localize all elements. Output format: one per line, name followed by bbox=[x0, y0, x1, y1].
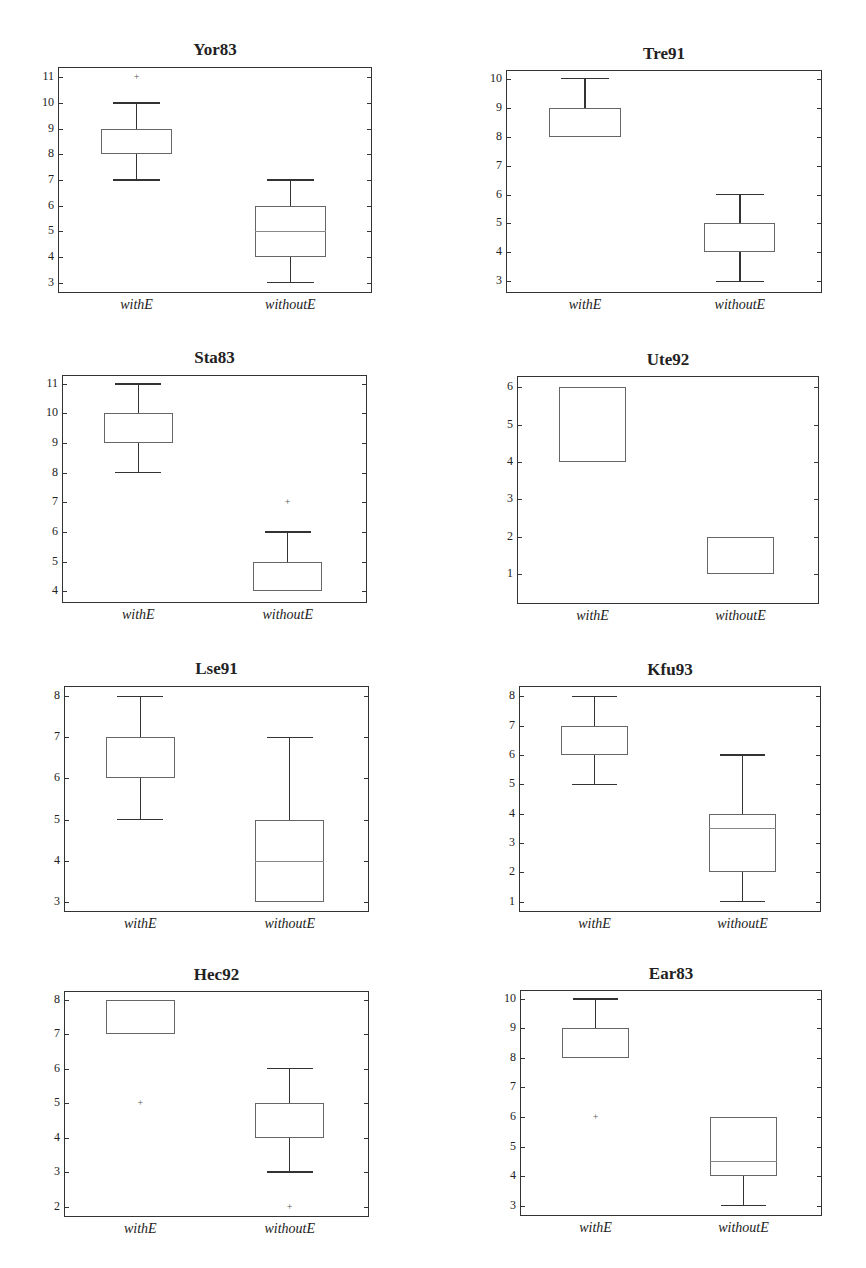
y-tick-label: 2 bbox=[493, 864, 515, 879]
y-tick-label: 11 bbox=[32, 69, 54, 84]
y-tick-mark bbox=[816, 814, 820, 815]
x-axis-label: withE bbox=[555, 916, 635, 932]
lower-whisker-cap bbox=[113, 179, 160, 181]
upper-whisker-cap bbox=[267, 737, 313, 739]
y-tick-mark bbox=[59, 283, 63, 284]
y-tick-mark bbox=[518, 462, 522, 463]
y-tick-label: 6 bbox=[494, 1109, 516, 1124]
x-axis-label: withE bbox=[545, 297, 625, 313]
y-tick-mark bbox=[364, 902, 368, 903]
x-axis-label: withoutE bbox=[250, 297, 330, 313]
y-tick-mark bbox=[362, 443, 366, 444]
iqr-box bbox=[104, 413, 173, 443]
iqr-box bbox=[561, 726, 629, 755]
y-tick-mark bbox=[814, 499, 818, 500]
y-tick-label: 7 bbox=[480, 158, 502, 173]
y-tick-mark bbox=[518, 499, 522, 500]
x-axis-label: withE bbox=[100, 1221, 180, 1237]
y-tick-label: 5 bbox=[36, 554, 58, 569]
y-tick-mark bbox=[63, 443, 67, 444]
upper-whisker bbox=[290, 180, 292, 206]
y-tick-mark bbox=[520, 784, 524, 785]
upper-whisker bbox=[140, 696, 142, 737]
iqr-box bbox=[559, 387, 627, 462]
y-tick-mark bbox=[63, 591, 67, 592]
y-tick-mark bbox=[518, 425, 522, 426]
y-tick-mark bbox=[507, 108, 511, 109]
y-tick-mark bbox=[507, 79, 511, 80]
y-tick-label: 4 bbox=[38, 1130, 60, 1145]
y-tick-mark bbox=[65, 1069, 69, 1070]
y-tick-mark bbox=[65, 1172, 69, 1173]
y-tick-label: 2 bbox=[491, 529, 513, 544]
y-tick-label: 6 bbox=[491, 379, 513, 394]
y-tick-mark bbox=[816, 902, 820, 903]
upper-whisker-cap bbox=[720, 754, 765, 756]
y-tick-label: 3 bbox=[493, 835, 515, 850]
lower-whisker-cap bbox=[115, 472, 161, 474]
y-tick-label: 8 bbox=[493, 688, 515, 703]
upper-whisker bbox=[595, 999, 597, 1029]
lower-whisker bbox=[743, 1176, 745, 1206]
chart-title: Sta83 bbox=[62, 348, 367, 368]
lower-whisker-cap bbox=[716, 281, 763, 283]
y-tick-mark bbox=[814, 537, 818, 538]
y-tick-mark bbox=[817, 1147, 821, 1148]
y-tick-mark bbox=[364, 1069, 368, 1070]
y-tick-mark bbox=[65, 902, 69, 903]
iqr-box bbox=[549, 108, 620, 137]
x-axis-label: withoutE bbox=[250, 916, 330, 932]
x-axis-label: withE bbox=[100, 916, 180, 932]
y-tick-label: 3 bbox=[38, 894, 60, 909]
lower-whisker-cap bbox=[720, 901, 765, 903]
y-tick-label: 6 bbox=[480, 187, 502, 202]
y-tick-mark bbox=[364, 1172, 368, 1173]
lower-whisker-cap bbox=[267, 1171, 313, 1173]
y-tick-mark bbox=[507, 223, 511, 224]
y-tick-mark bbox=[362, 384, 366, 385]
x-axis-label: withoutE bbox=[248, 607, 328, 623]
y-tick-mark bbox=[816, 843, 820, 844]
y-tick-label: 3 bbox=[480, 273, 502, 288]
y-tick-label: 8 bbox=[38, 688, 60, 703]
y-tick-mark bbox=[65, 861, 69, 862]
y-tick-mark bbox=[367, 206, 371, 207]
y-tick-label: 10 bbox=[480, 71, 502, 86]
y-tick-mark bbox=[59, 103, 63, 104]
y-tick-mark bbox=[364, 1034, 368, 1035]
y-tick-label: 6 bbox=[38, 1061, 60, 1076]
upper-whisker bbox=[594, 696, 596, 725]
outlier-marker: + bbox=[283, 497, 293, 507]
y-tick-label: 7 bbox=[38, 729, 60, 744]
chart-title: Kfu93 bbox=[519, 660, 821, 680]
y-tick-mark bbox=[816, 872, 820, 873]
y-tick-mark bbox=[63, 473, 67, 474]
y-tick-mark bbox=[817, 999, 821, 1000]
y-tick-mark bbox=[817, 195, 821, 196]
upper-whisker-cap bbox=[117, 696, 163, 698]
y-tick-label: 9 bbox=[36, 435, 58, 450]
y-tick-mark bbox=[362, 591, 366, 592]
y-tick-mark bbox=[65, 737, 69, 738]
y-tick-label: 8 bbox=[38, 992, 60, 1007]
chart-title: Yor83 bbox=[58, 40, 372, 60]
y-tick-mark bbox=[65, 778, 69, 779]
upper-whisker-cap bbox=[572, 696, 617, 698]
y-tick-label: 7 bbox=[32, 172, 54, 187]
y-tick-mark bbox=[65, 1034, 69, 1035]
y-tick-label: 9 bbox=[480, 100, 502, 115]
y-tick-mark bbox=[521, 999, 525, 1000]
y-tick-label: 4 bbox=[493, 806, 515, 821]
iqr-box bbox=[253, 562, 322, 592]
y-tick-label: 2 bbox=[38, 1199, 60, 1214]
chart-title: Ear83 bbox=[520, 964, 822, 984]
y-tick-mark bbox=[364, 778, 368, 779]
y-tick-mark bbox=[63, 413, 67, 414]
y-tick-mark bbox=[507, 137, 511, 138]
upper-whisker bbox=[742, 755, 744, 814]
y-tick-mark bbox=[65, 1138, 69, 1139]
y-tick-label: 5 bbox=[493, 776, 515, 791]
y-tick-mark bbox=[520, 843, 524, 844]
y-tick-label: 8 bbox=[32, 146, 54, 161]
y-tick-label: 5 bbox=[32, 223, 54, 238]
